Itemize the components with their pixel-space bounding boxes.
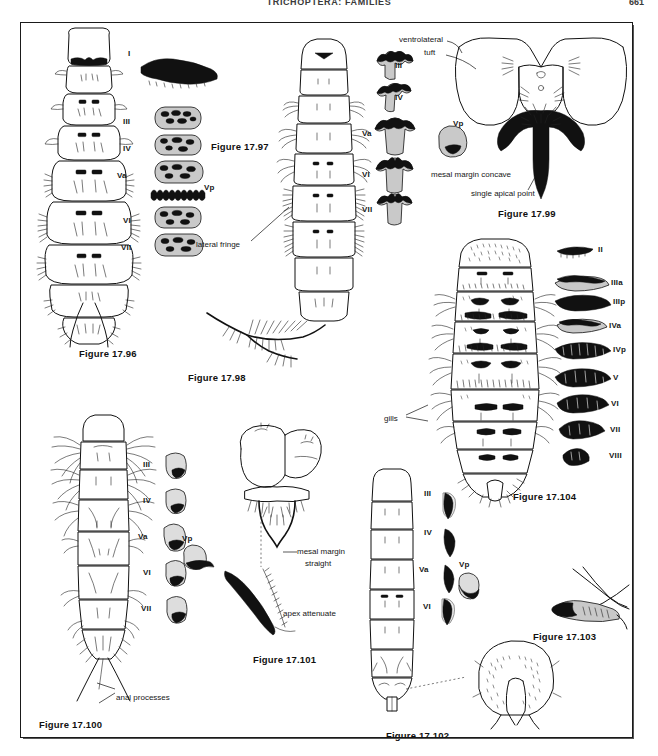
callout-mesal-margin-concave: mesal margin concave [431, 170, 511, 180]
figure-label-17-99: Figure 17.99 [498, 208, 556, 219]
segment-label-1797-Va: Va [362, 129, 372, 138]
figure-label-17-102: Figure 17.102 [386, 730, 449, 741]
callout-mesal-straight-line2: straight [305, 559, 331, 569]
figure-17-102-vp-sclerite [453, 571, 485, 605]
segment-label-17102-III: III [424, 489, 431, 498]
figure-label-17-101: Figure 17.101 [253, 654, 316, 665]
figure-17-102-terminal-detail [461, 633, 571, 733]
figure-17-101-drawing [211, 421, 331, 641]
segment-label-1797-VI: VI [362, 170, 370, 179]
segment-label-17100-VI: VI [143, 568, 151, 577]
figure-label-17-104: Figure 17.104 [513, 491, 576, 502]
figure-label-17-97: Figure 17.97 [211, 141, 269, 152]
callout-anal-processes: anal processes [116, 693, 170, 703]
plate-frame: Figure 17.96 [20, 22, 633, 738]
segment-label-17104-V: V [613, 373, 619, 382]
figure-17-100-drawing [39, 413, 169, 703]
segment-label-17104-IIIp: IIIp [613, 297, 625, 306]
leader-gills [404, 401, 434, 427]
segment-label-17102-Vp: Vp [459, 560, 470, 569]
segment-label-17104-II: II [598, 245, 603, 254]
figure-17-96-drawing [29, 25, 149, 355]
segment-label-1796-VI: VI [123, 216, 131, 225]
callout-apex-attenuate: apex attenuate [283, 609, 336, 619]
segment-label-17104-IIIa: IIIa [611, 278, 623, 287]
leader-ventrolateral-tuft [446, 35, 492, 83]
figure-17-104-drawing [421, 233, 571, 503]
leader-apical-point [526, 168, 560, 194]
segment-label-17104-IVp: IVp [613, 345, 626, 354]
plate-page: TRICHOPTERA: FAMILIES 661 [0, 0, 658, 756]
callout-lateral-fringe: lateral fringe [196, 240, 240, 250]
segment-label-17100-Vp: Vp [182, 534, 193, 543]
segment-label-17100-VII: VII [141, 604, 151, 613]
segment-label-17104-VIII: VIII [609, 451, 622, 460]
page-number: 661 [629, 0, 644, 7]
leader-anal-processes [93, 681, 121, 707]
leader-17-102-detail [406, 673, 470, 693]
segment-label-1796-Vp: Vp [204, 183, 215, 192]
leader-mesal-straight [283, 547, 299, 557]
figure-label-17-103: Figure 17.103 [533, 631, 596, 642]
figure-17-97-sclerites [367, 41, 427, 241]
segment-label-17104-VI: VI [611, 399, 619, 408]
segment-label-1796-Va: Va [117, 171, 127, 180]
callout-ventrolateral-line2: tuft [424, 48, 435, 58]
running-head: TRICHOPTERA: FAMILIES [0, 0, 658, 7]
segment-label-1797-III: III [395, 61, 402, 70]
callout-gills: gills [384, 414, 398, 424]
callout-ventrolateral-line1: ventrolateral [399, 35, 443, 45]
leader-lateral-fringe [249, 203, 295, 245]
segment-label-17102-IV: IV [424, 528, 432, 537]
figure-17-100-sclerites [154, 448, 200, 628]
segment-label-17104-IVa: IVa [609, 321, 621, 330]
figure-label-17-98: Figure 17.98 [188, 372, 246, 383]
segment-label-1796-III: III [123, 117, 130, 126]
figure-label-17-100: Figure 17.100 [39, 719, 102, 730]
segment-label-17100-IV: IV [143, 496, 151, 505]
figure-17-102-sclerites [433, 489, 473, 629]
segment-label-1796-VII: VII [121, 243, 131, 252]
segment-label-17102-VI: VI [423, 602, 431, 611]
segment-label-17100-Va: Va [138, 532, 148, 541]
figure-17-103-drawing [537, 563, 637, 633]
segment-label-17104-VII: VII [610, 425, 620, 434]
segment-label-17102-Va: Va [419, 565, 429, 574]
segment-label-17100-III: III [143, 460, 150, 469]
figure-17-98-drawing [191, 301, 331, 371]
figure-label-17-96: Figure 17.96 [79, 348, 137, 359]
segment-label-1796-I: I [128, 49, 130, 58]
figure-17-104-sclerites [551, 241, 625, 471]
callout-mesal-straight-line1: mesal margin [297, 547, 345, 557]
segment-label-1797-VII: VII [362, 205, 372, 214]
segment-label-1797-IV: IV [395, 93, 403, 102]
segment-label-1796-IV: IV [123, 144, 131, 153]
